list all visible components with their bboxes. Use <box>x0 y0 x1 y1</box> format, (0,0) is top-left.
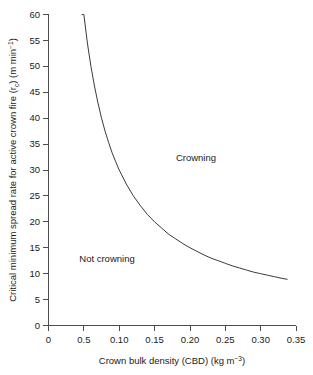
x-tick-label: 0.30 <box>251 334 270 345</box>
y-tick-label: 55 <box>29 35 40 46</box>
x-tick-label: 0.20 <box>181 334 200 345</box>
x-tick-label: 0.5 <box>77 334 90 345</box>
y-tick-label: 45 <box>29 86 40 97</box>
chart-figure: 0 5 10 15 20 25 30 35 40 45 50 55 <box>0 0 313 375</box>
y-tick-label: 25 <box>29 190 40 201</box>
x-tick-label: 0.25 <box>216 334 235 345</box>
y-tick-label: 15 <box>29 242 40 253</box>
x-tick-label: 0 <box>46 334 51 345</box>
y-tick-label: 50 <box>29 60 40 71</box>
y-axis-title: Critical minimum spread rate for active … <box>7 38 20 302</box>
y-tick-label: 20 <box>29 216 40 227</box>
annotation-crowning: Crowning <box>176 152 216 163</box>
y-tick-label: 0 <box>35 320 40 331</box>
x-axis-title: Crown bulk density (CBD) (kg m−3) <box>99 355 245 367</box>
x-tick-label: 0.15 <box>145 334 164 345</box>
threshold-curve-chart: 0 5 10 15 20 25 30 35 40 45 50 55 <box>0 0 313 375</box>
y-tick-label: 5 <box>35 294 40 305</box>
annotation-not-crowning: Not crowning <box>79 253 134 264</box>
y-tick-label: 40 <box>29 112 40 123</box>
chart-background <box>0 0 313 375</box>
y-tick-label: 60 <box>29 9 40 20</box>
y-tick-label: 10 <box>29 268 40 279</box>
x-tick-label: 0.35 <box>287 334 306 345</box>
x-tick-label: 0.10 <box>110 334 129 345</box>
y-tick-label: 35 <box>29 138 40 149</box>
y-tick-label: 30 <box>29 164 40 175</box>
